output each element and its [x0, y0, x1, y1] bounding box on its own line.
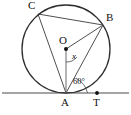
- label-angle-60: 60°: [73, 77, 85, 86]
- center-point-dot: [64, 47, 68, 51]
- point-t-dot: [95, 91, 99, 95]
- segment-ac: [38, 14, 66, 93]
- geometry-figure: C B O x 60° A T: [0, 0, 131, 115]
- segment-ob: [66, 25, 103, 49]
- label-point-t: T: [93, 97, 100, 108]
- label-angle-x: x: [72, 52, 76, 61]
- segment-cb: [38, 14, 103, 25]
- label-center-o: O: [59, 35, 67, 46]
- label-point-a: A: [61, 97, 69, 108]
- label-point-b: B: [106, 12, 113, 23]
- label-point-c: C: [28, 0, 35, 11]
